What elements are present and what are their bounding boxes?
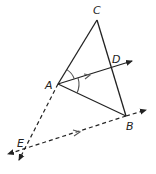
angle-arc-dab: [77, 78, 79, 93]
line-eb: [8, 116, 126, 154]
segment-ac: [58, 20, 97, 84]
ray-ad: [58, 61, 132, 84]
geometry-diagram: C A D B E: [0, 0, 156, 174]
label-a: A: [44, 79, 53, 92]
label-d: D: [112, 53, 120, 66]
parallel-mark-ad: [84, 74, 90, 79]
angle-arc-cad: [67, 70, 75, 79]
line-eb-ext: [126, 110, 146, 116]
label-b: B: [126, 120, 134, 133]
label-c: C: [93, 4, 101, 17]
label-e: E: [17, 137, 24, 150]
segment-ab: [58, 84, 126, 116]
